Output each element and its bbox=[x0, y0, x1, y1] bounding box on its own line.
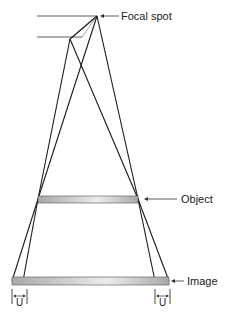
object-label: Object bbox=[181, 193, 213, 205]
image-bar bbox=[12, 277, 169, 285]
ray bbox=[97, 16, 138, 199]
ray bbox=[138, 199, 155, 281]
focal-spot-label: Focal spot bbox=[121, 10, 172, 22]
ray bbox=[38, 16, 97, 199]
unsharpness-label-left: U bbox=[16, 297, 23, 309]
ray bbox=[138, 199, 169, 281]
object-bar bbox=[38, 196, 138, 203]
unsharpness-label-right: U bbox=[159, 297, 166, 309]
ray bbox=[38, 39, 70, 199]
image-label: Image bbox=[187, 275, 218, 287]
ray bbox=[70, 39, 138, 199]
